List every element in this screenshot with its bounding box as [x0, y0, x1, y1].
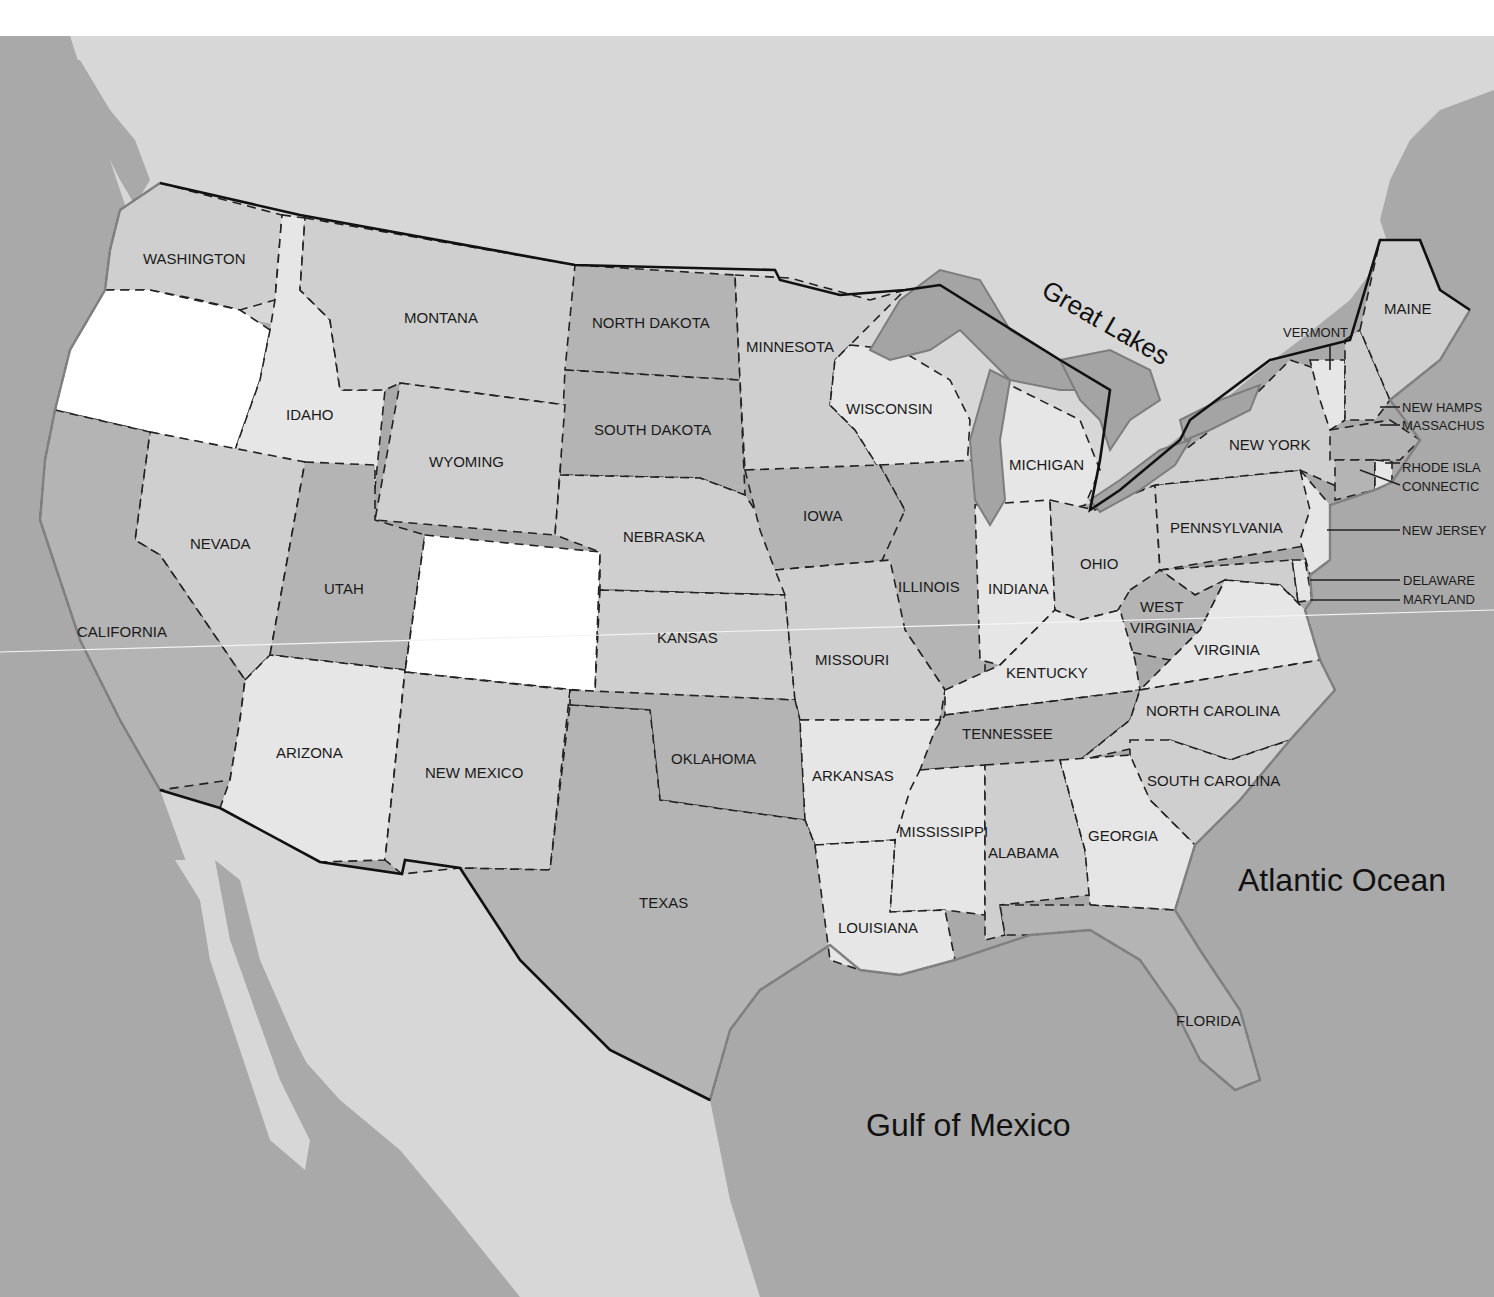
- label-pennsylvania: PENNSYLVANIA: [1170, 519, 1283, 536]
- label-tennessee: TENNESSEE: [962, 725, 1053, 742]
- label-mississippi: MISSISSIPPI: [899, 823, 988, 840]
- label-kentucky: KENTUCKY: [1006, 664, 1088, 681]
- label-south-carolina: SOUTH CAROLINA: [1147, 772, 1280, 789]
- label-wisconsin: WISCONSIN: [846, 400, 933, 417]
- state-colorado[interactable]: [405, 535, 600, 692]
- label-north-dakota: NORTH DAKOTA: [592, 314, 710, 331]
- label-west-virginia-line2: VIRGINIA: [1130, 619, 1196, 636]
- label-gulf-of-mexico: Gulf of Mexico: [866, 1107, 1071, 1143]
- label-california: CALIFORNIA: [77, 623, 167, 640]
- label-atlantic-ocean: Atlantic Ocean: [1238, 862, 1446, 898]
- label-new-york: NEW YORK: [1229, 436, 1310, 453]
- label-florida: FLORIDA: [1176, 1012, 1241, 1029]
- label-ohio: OHIO: [1080, 555, 1118, 572]
- label-alabama: ALABAMA: [988, 844, 1059, 861]
- label-georgia: GEORGIA: [1088, 827, 1158, 844]
- label-washington: WASHINGTON: [143, 250, 246, 267]
- label-maryland: MARYLAND: [1403, 592, 1475, 607]
- label-missouri: MISSOURI: [815, 651, 889, 668]
- label-connecticut: CONNECTIC: [1402, 479, 1479, 494]
- label-new-mexico: NEW MEXICO: [425, 764, 523, 781]
- label-louisiana: LOUISIANA: [838, 919, 918, 936]
- label-south-dakota: SOUTH DAKOTA: [594, 421, 711, 438]
- label-wyoming: WYOMING: [429, 453, 504, 470]
- label-michigan: MICHIGAN: [1009, 456, 1084, 473]
- label-west-virginia-line1: WEST: [1140, 598, 1183, 615]
- label-illinois: ILLINOIS: [898, 578, 960, 595]
- label-vermont: VERMONT: [1283, 325, 1348, 340]
- label-iowa: IOWA: [803, 507, 842, 524]
- label-rhode-island: RHODE ISLA: [1402, 460, 1481, 475]
- label-nevada: NEVADA: [190, 535, 251, 552]
- label-oklahoma: OKLAHOMA: [671, 750, 756, 767]
- label-maine: MAINE: [1384, 300, 1432, 317]
- label-texas: TEXAS: [639, 894, 688, 911]
- label-utah: UTAH: [324, 580, 364, 597]
- label-idaho: IDAHO: [286, 406, 334, 423]
- label-nebraska: NEBRASKA: [623, 528, 705, 545]
- us-map: WASHINGTON IDAHO MONTANA NORTH DAKOTA SO…: [0, 0, 1494, 1297]
- label-virginia: VIRGINIA: [1194, 641, 1260, 658]
- label-arkansas: ARKANSAS: [812, 767, 894, 784]
- label-montana: MONTANA: [404, 309, 478, 326]
- label-new-jersey: NEW JERSEY: [1402, 523, 1487, 538]
- label-massachusetts: MASSACHUS: [1402, 418, 1485, 433]
- label-delaware: DELAWARE: [1403, 573, 1475, 588]
- label-minnesota: MINNESOTA: [746, 338, 834, 355]
- label-kansas: KANSAS: [657, 629, 718, 646]
- label-north-carolina: NORTH CAROLINA: [1146, 702, 1280, 719]
- label-indiana: INDIANA: [988, 580, 1049, 597]
- label-new-hampshire: NEW HAMPS: [1402, 400, 1483, 415]
- label-arizona: ARIZONA: [276, 744, 343, 761]
